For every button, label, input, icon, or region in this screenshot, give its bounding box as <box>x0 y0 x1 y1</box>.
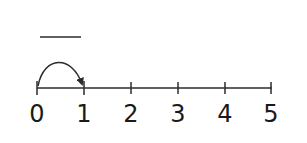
tick-label-3: 3 <box>170 100 185 128</box>
tick-label-4: 4 <box>217 100 232 128</box>
tick-label-5: 5 <box>263 100 278 128</box>
tick-label-2: 2 <box>123 100 138 128</box>
jump-arc-arrow <box>38 62 82 86</box>
tick-label-1: 1 <box>76 100 91 128</box>
tick-label-0: 0 <box>29 100 44 128</box>
number-line-diagram: 0 1 2 3 4 5 <box>0 0 307 143</box>
